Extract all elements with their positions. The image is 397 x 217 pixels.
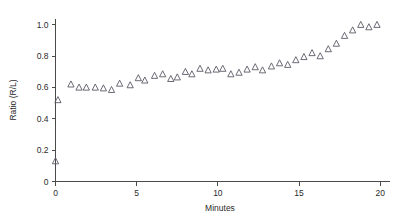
data-point-marker (127, 82, 133, 88)
data-point-marker (135, 75, 141, 81)
y-tick-label: 1.0 (37, 20, 49, 30)
x-tick-label: 10 (213, 188, 223, 198)
data-point-marker (174, 74, 180, 80)
data-point-marker (325, 46, 331, 52)
data-point-marker (252, 64, 258, 70)
data-point-marker (197, 65, 203, 71)
data-point-marker (276, 60, 282, 66)
data-point-marker (205, 67, 211, 73)
y-tick-label: 0.6 (37, 82, 49, 92)
data-point-marker (151, 72, 157, 78)
data-point-marker (259, 67, 265, 73)
data-point-marker (374, 21, 380, 27)
data-point-marker (142, 77, 148, 83)
data-point-marker (244, 66, 250, 72)
data-point-marker (83, 84, 89, 90)
data-point-marker (333, 40, 339, 46)
data-point-marker (366, 24, 372, 30)
data-points (52, 21, 380, 163)
data-point-marker (301, 53, 307, 59)
data-point-marker (358, 21, 364, 27)
chart-figure: 00.20.40.60.81.005101520 Minutes Ratio (… (0, 0, 397, 217)
data-point-marker (236, 69, 242, 75)
x-tick-label: 5 (134, 188, 139, 198)
data-point-marker (100, 85, 106, 91)
data-point-marker (68, 81, 74, 87)
data-point-marker (76, 84, 82, 90)
data-point-marker (213, 66, 219, 72)
data-point-marker (160, 71, 166, 77)
data-point-marker (228, 71, 234, 77)
y-axis-label: Ratio (R/L) (8, 79, 18, 120)
data-point-marker (220, 65, 226, 71)
data-point-marker (168, 75, 174, 81)
axis-ticks (52, 25, 381, 186)
x-tick-label: 20 (376, 188, 386, 198)
data-point-marker (350, 27, 356, 33)
y-tick-label: 0.2 (37, 145, 49, 155)
data-point-marker (317, 53, 323, 59)
scatter-plot: 00.20.40.60.81.005101520 Minutes Ratio (… (0, 0, 397, 217)
y-tick-label: 0.4 (37, 114, 49, 124)
data-point-marker (309, 50, 315, 56)
x-axis-label: Minutes (205, 203, 235, 213)
data-point-marker (108, 86, 114, 92)
x-tick-label: 0 (53, 188, 58, 198)
data-point-marker (117, 80, 123, 86)
data-point-marker (268, 63, 274, 69)
data-point-marker (92, 84, 98, 90)
y-tick-label: 0.8 (37, 51, 49, 61)
data-point-marker (293, 57, 299, 63)
data-point-marker (182, 68, 188, 74)
axes (56, 19, 391, 182)
data-point-marker (189, 71, 195, 77)
y-tick-label: 0 (44, 177, 49, 187)
x-tick-label: 15 (294, 188, 304, 198)
data-point-marker (341, 32, 347, 38)
data-point-marker (285, 61, 291, 67)
